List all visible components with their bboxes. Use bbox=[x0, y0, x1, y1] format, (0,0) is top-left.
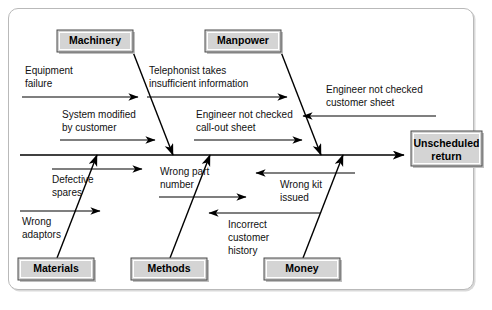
system-modified-line2: by customer bbox=[62, 122, 117, 133]
defective-spares-line2: spares bbox=[52, 187, 82, 198]
methods-label: Methods bbox=[147, 262, 190, 274]
wrong-kit-issued-line1: Wrong kit bbox=[280, 179, 322, 190]
cause-wrong-part-number: Wrong part number bbox=[159, 166, 246, 197]
telephonist-line1: Telephonist takes bbox=[149, 65, 226, 76]
category-money[interactable]: Money bbox=[264, 155, 343, 282]
engineer-call-out-line2: call-out sheet bbox=[196, 122, 256, 133]
cause-system-modified-by-customer: System modified by customer bbox=[60, 109, 155, 140]
effect-label-line2: return bbox=[431, 150, 461, 162]
engineer-customer-sheet-line1: Engineer not checked bbox=[326, 84, 423, 95]
wrong-adaptors-line1: Wrong bbox=[22, 216, 51, 227]
effect-label-line1: Unscheduled bbox=[414, 137, 480, 149]
wrong-part-number-line1: Wrong part bbox=[160, 166, 210, 177]
rib-money bbox=[303, 155, 343, 258]
engineer-call-out-line1: Engineer not checked bbox=[196, 109, 293, 120]
incorrect-customer-history-line1: Incorrect bbox=[228, 219, 267, 230]
category-manpower[interactable]: Manpower bbox=[205, 30, 321, 155]
equipment-failure-line2: failure bbox=[25, 78, 53, 89]
cause-wrong-kit-issued: Wrong kit issued bbox=[256, 173, 355, 203]
effect-box-unscheduled-return[interactable]: Unscheduled return bbox=[411, 131, 484, 168]
category-machinery[interactable]: Machinery bbox=[57, 30, 173, 155]
wrong-adaptors-line2: adaptors bbox=[22, 229, 61, 240]
wrong-part-number-line2: number bbox=[160, 179, 195, 190]
fishbone-diagram-page: Unscheduled return Machinery Equipment f… bbox=[0, 0, 492, 310]
cause-telephonist-insufficient-information: Telephonist takes insufficient informati… bbox=[147, 65, 287, 97]
engineer-customer-sheet-line2: customer sheet bbox=[326, 97, 395, 108]
cause-incorrect-customer-history: Incorrect customer history bbox=[209, 213, 320, 256]
system-modified-line1: System modified bbox=[62, 109, 136, 120]
ishikawa-diagram-canvas: Unscheduled return Machinery Equipment f… bbox=[0, 0, 492, 310]
materials-label: Materials bbox=[33, 262, 79, 274]
wrong-kit-issued-line2: issued bbox=[280, 192, 309, 203]
cause-engineer-not-checked-call-out-sheet: Engineer not checked call-out sheet bbox=[194, 109, 302, 140]
rib-materials bbox=[57, 155, 97, 258]
money-label: Money bbox=[285, 262, 318, 274]
manpower-label: Manpower bbox=[217, 34, 269, 46]
incorrect-customer-history-line2: customer bbox=[228, 232, 270, 243]
telephonist-line2: insufficient information bbox=[149, 78, 248, 89]
equipment-failure-line1: Equipment bbox=[25, 65, 73, 76]
cause-engineer-not-checked-customer-sheet: Engineer not checked customer sheet bbox=[303, 84, 436, 116]
cause-defective-spares: Defective spares bbox=[52, 169, 142, 198]
cause-equipment-failure: Equipment failure bbox=[22, 65, 138, 97]
machinery-label: Machinery bbox=[69, 34, 121, 46]
defective-spares-line1: Defective bbox=[52, 174, 94, 185]
incorrect-customer-history-line3: history bbox=[228, 245, 257, 256]
cause-wrong-adaptors: Wrong adaptors bbox=[20, 211, 100, 240]
